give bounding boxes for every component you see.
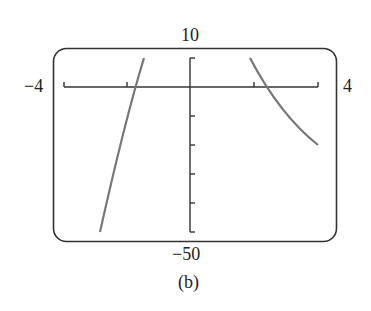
y-max-label: 10 bbox=[181, 26, 199, 44]
y-axis bbox=[190, 58, 195, 232]
figure-caption: (b) bbox=[178, 273, 199, 291]
curve-left-branch bbox=[100, 58, 144, 232]
x-min-label: −4 bbox=[24, 77, 43, 95]
x-axis bbox=[64, 82, 318, 87]
graphing-calculator-window bbox=[0, 0, 371, 311]
curve-right-branch bbox=[250, 58, 318, 145]
x-max-label: 4 bbox=[343, 77, 352, 95]
y-min-label: −50 bbox=[172, 245, 200, 263]
